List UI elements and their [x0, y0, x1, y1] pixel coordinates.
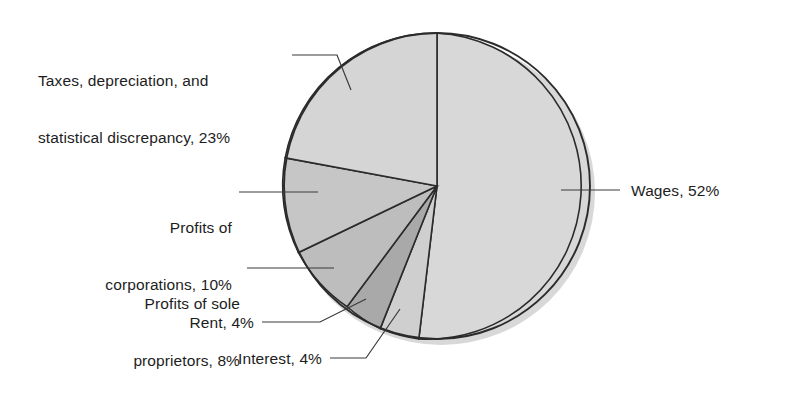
pie-label-taxes-line2: statistical discrepancy, 23% [38, 128, 230, 147]
pie-label-taxes: Taxes, depreciation, and statistical dis… [38, 33, 230, 185]
pie-label-taxes-line1: Taxes, depreciation, and [38, 71, 230, 90]
pie-chart-figure: Taxes, depreciation, and statistical dis… [0, 0, 786, 393]
pie-slice-wages[interactable] [419, 33, 581, 339]
pie-label-rent: Rent, 4% [0, 313, 254, 332]
pie-label-wages: Wages, 52% [631, 181, 719, 200]
pie-label-sole-proprietors-line1: Profits of sole [0, 294, 240, 313]
pie-label-corporations-line1: Profits of [0, 218, 232, 237]
pie-label-interest: Interest, 4% [0, 349, 322, 368]
